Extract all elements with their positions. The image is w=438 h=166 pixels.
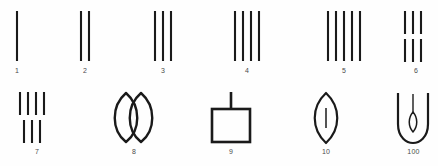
glyph-2-art [68,8,102,64]
glyph-label-10: 10 [322,147,330,156]
glyph-cell-1: 1 [0,8,34,75]
glyph-10-art [302,90,350,145]
glyph-100-art [389,90,438,145]
glyph-cell-9: 9 [204,90,258,156]
glyph-label-5: 5 [342,66,346,75]
glyph-8-art [104,90,164,145]
glyph-label-3: 3 [161,66,165,75]
glyph-cell-2: 2 [68,8,102,75]
glyph-cell-5: 5 [318,8,370,75]
glyph-label-1: 1 [15,66,19,75]
glyph-cell-100: 100 [389,90,438,156]
glyph-label-100: 100 [407,147,419,156]
glyph-cell-7: 7 [12,90,62,156]
glyph-cell-6: 6 [396,8,436,75]
glyph-5-art [318,8,370,64]
glyph-label-7: 7 [35,147,39,156]
glyph-6-art [396,8,436,64]
glyph-cell-10: 10 [302,90,350,156]
glyph-3-art [141,8,185,64]
glyph-cell-8: 8 [104,90,164,156]
glyph-cell-3: 3 [141,8,185,75]
glyph-4-art [222,8,272,64]
glyph-cell-4: 4 [222,8,272,75]
glyph-label-8: 8 [132,147,136,156]
glyph-label-2: 2 [83,66,87,75]
glyph-label-4: 4 [245,66,249,75]
glyph-1-art [0,8,34,64]
glyph-label-6: 6 [414,66,418,75]
glyph-9-art [204,90,258,145]
glyph-7-art [12,90,62,145]
numeral-glyph-chart: 1 2 3 [0,0,438,166]
glyph-label-9: 9 [229,147,233,156]
